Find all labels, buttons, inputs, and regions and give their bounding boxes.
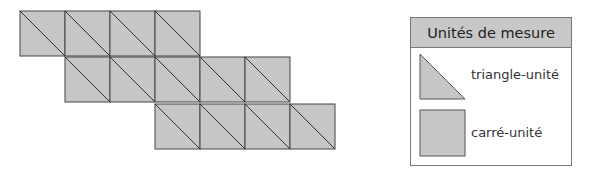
legend-item-triangle: triangle-unité	[411, 53, 571, 101]
triangle-unit-icon	[419, 53, 466, 100]
legend-label-square: carré-unité	[471, 125, 542, 140]
square-unit-icon	[419, 109, 466, 157]
units-legend: Unités de mesure triangle-unité carré-un…	[410, 17, 572, 166]
legend-label-triangle: triangle-unité	[471, 67, 559, 82]
legend-title: Unités de mesure	[411, 18, 571, 48]
composite-shape-figure	[0, 0, 400, 177]
legend-item-square: carré-unité	[411, 109, 571, 157]
